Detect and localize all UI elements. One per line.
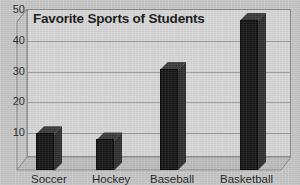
bar-chart-screenshot: Favorite Sports of Students 50 40 30 20 … bbox=[0, 0, 300, 185]
bar-baseball-front[interactable] bbox=[160, 69, 178, 170]
y-tick-20: 20 bbox=[3, 95, 25, 107]
x-tick-soccer: Soccer bbox=[31, 173, 67, 185]
bar-hockey-front[interactable] bbox=[96, 139, 114, 170]
chart-title: Favorite Sports of Students bbox=[33, 11, 205, 26]
y-tick-10: 10 bbox=[3, 126, 25, 138]
bar-baseball-side[interactable] bbox=[178, 62, 186, 170]
y-axis-tick-labels: 50 40 30 20 10 bbox=[0, 0, 25, 185]
x-tick-hockey: Hockey bbox=[92, 173, 130, 185]
x-axis-category-labels: Soccer Hockey Baseball Basketball bbox=[0, 167, 300, 185]
x-tick-basketball: Basketball bbox=[220, 173, 273, 185]
bar-basketball-front[interactable] bbox=[240, 20, 258, 171]
y-tick-50: 50 bbox=[3, 3, 25, 15]
bar-soccer-front[interactable] bbox=[36, 133, 54, 170]
y-tick-30: 30 bbox=[3, 65, 25, 77]
x-tick-baseball: Baseball bbox=[150, 173, 194, 185]
y-tick-40: 40 bbox=[3, 34, 25, 46]
bar-basketball-side[interactable] bbox=[258, 13, 266, 171]
